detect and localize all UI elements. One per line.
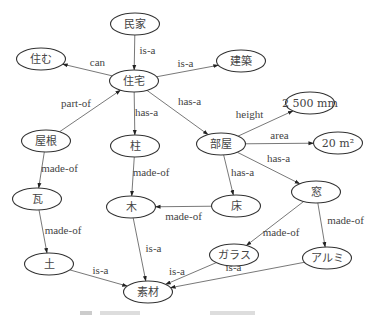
node-garasu: ガラス [210,244,259,266]
node-label: 柱 [130,139,141,153]
node-area_val: 20 m² [314,132,363,154]
edge-label-has-a: has-a [135,106,158,118]
edge-mado-arumi [318,203,325,247]
node-label: 窓 [311,185,322,199]
edge-label-height: height [236,108,264,120]
edge-labels-layer: is-acanis-apart-ofhas-ahas-aheightareaha… [41,44,364,277]
node-label: 2 500 mm [282,97,338,110]
node-heya: 部屋 [197,133,246,155]
node-yane: 屋根 [22,130,71,152]
edge-label-is-a: is-a [178,57,194,69]
caption-fragment [80,311,255,315]
edge-label-has-a: has-a [267,152,290,164]
semantic-network-diagram: is-acanis-apart-ofhas-ahas-aheightareaha… [0,0,375,315]
edge-heya-area_val [245,143,313,144]
edge-yuka-ki [155,206,211,207]
edge-label-made-of: made-of [327,214,364,226]
edge-label-is-a: is-a [140,44,156,56]
node-label: 民家 [124,17,146,31]
edge-label-has-a: has-a [178,95,201,107]
node-label: 住宅 [123,74,145,88]
node-arumi: アルミ [303,247,352,269]
node-label: 素材 [137,285,159,299]
edge-label-made-of: made-of [165,210,202,222]
node-label: 屋根 [35,134,57,148]
edge-label-is-a: is-a [169,265,185,277]
node-mado: 窓 [292,181,341,203]
edge-label-made-of: made-of [45,224,82,236]
edge-ki-sozai [133,218,146,281]
node-label: 住む [30,52,52,66]
edge-arrow [245,143,313,144]
node-label: 20 m² [322,137,354,150]
node-sozai: 素材 [124,281,173,303]
node-label: 土 [44,258,55,271]
node-tsuchi: 土 [25,253,74,275]
edge-arrow [133,218,146,281]
edge-label-made-of: made-of [41,162,78,174]
node-label: 床 [231,199,242,213]
node-height_val: 2 500 mm [282,92,338,114]
edge-arrow [318,203,325,247]
node-hashira: 柱 [111,135,160,157]
node-minka: 民家 [111,13,160,35]
edge-arrow [134,35,135,70]
edge-label-part-of: part-of [61,97,91,109]
edge-label-is-a: is-a [146,242,162,254]
edge-minka-jutaku [134,35,135,70]
node-label: 瓦 [32,193,43,206]
node-label: アルミ [311,252,344,265]
edge-label-can: can [90,56,106,68]
node-label: ガラス [218,249,251,262]
edge-arrow [155,206,211,207]
node-ki: 木 [107,196,156,218]
node-jutaku: 住宅 [110,70,159,92]
node-sumu: 住む [17,48,66,70]
edge-label-made-of: made-of [263,226,300,238]
edge-label-has-a: has-a [231,166,254,178]
node-kawara: 瓦 [13,188,62,210]
node-label: 木 [126,201,137,214]
edge-label-made-of: made-of [133,166,170,178]
edge-label-is-a: is-a [93,264,109,276]
node-kenchiku: 建築 [217,50,266,72]
node-label: 部屋 [210,137,232,151]
node-yuka: 床 [212,195,261,217]
edge-label-area: area [270,129,288,141]
node-label: 建築 [230,54,252,68]
